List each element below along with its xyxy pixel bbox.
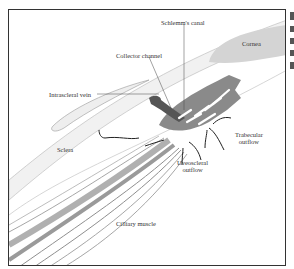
cropped-text-fragment <box>290 62 294 69</box>
label-intrascleral-vein: Intrascleral vein <box>49 91 91 98</box>
label-cornea: Cornea <box>242 40 261 47</box>
uveoscleral-line-2: outflow <box>177 166 208 173</box>
ciliary-muscle-fibers <box>9 136 187 266</box>
label-sclera: Sclera <box>57 146 73 153</box>
trabecular-line-1: Trabecular <box>235 131 263 138</box>
cropped-text-fragment <box>290 38 294 44</box>
cropped-text-fragment <box>290 50 294 56</box>
trabecular-line-2: outflow <box>235 138 263 145</box>
label-uveoscleral-outflow: Uveoscleral outflow <box>177 159 208 173</box>
cropped-text-fragment <box>290 12 294 20</box>
label-trabecular-outflow: Trabecular outflow <box>235 131 263 145</box>
label-ciliary-muscle: Cilliary muscle <box>116 220 156 227</box>
label-schlemms-canal: Schlemm's canal <box>161 19 205 26</box>
cropped-text-fragment <box>290 26 294 32</box>
diagram-frame: Schlemm's canal Cornea Collector channel… <box>8 9 286 266</box>
uveoscleral-line-1: Uveoscleral <box>177 159 208 166</box>
label-collector-channel: Collector channel <box>116 52 162 59</box>
